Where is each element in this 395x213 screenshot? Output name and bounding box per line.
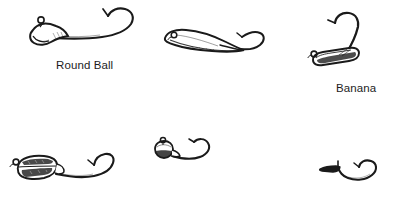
diagram-label-round-ball: Round Ball (56, 60, 113, 72)
slider-jig-head-illustration (318, 158, 386, 184)
football-jig-head-illustration (8, 153, 124, 185)
round-ball-jig-head-illustration (22, 6, 142, 52)
diagram-item-slider: Slider (318, 158, 386, 184)
diagram-item-banana: Banana (162, 24, 272, 58)
keel-head-jig-head-illustration (150, 137, 218, 165)
diagram-item-football: Football (8, 153, 124, 185)
diagram-label-banana: Banana (336, 83, 376, 95)
jig-head-styles-diagram: Round Ball Banana (0, 0, 395, 213)
diagram-item-stand-up: Stand-Up (303, 8, 375, 70)
stand-up-jig-head-illustration (303, 8, 375, 70)
banana-jig-head-illustration (162, 24, 272, 58)
diagram-item-keel-head: Keel-Head (150, 137, 218, 165)
diagram-item-round-ball: Round Ball (22, 6, 142, 52)
